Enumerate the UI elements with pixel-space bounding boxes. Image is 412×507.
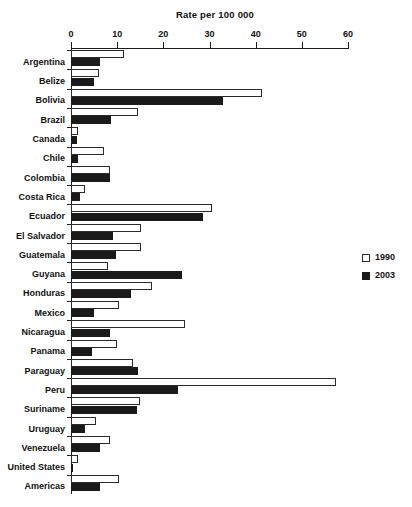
bar-venezuela-1990 xyxy=(71,436,110,444)
bar-suriname-1990 xyxy=(71,397,140,405)
category-label-ecuador: Ecuador xyxy=(29,212,65,221)
bar-honduras-1990 xyxy=(71,282,152,290)
bar-row: Guyana xyxy=(71,262,348,281)
category-label-belize: Belize xyxy=(39,77,65,86)
bar-row: Americas xyxy=(71,475,348,494)
bar-suriname-2003 xyxy=(71,406,137,414)
x-tick-label-60: 60 xyxy=(343,29,353,39)
chart-axis-title: Rate per 100 000 xyxy=(0,9,412,20)
bar-argentina-2003 xyxy=(71,58,100,66)
bar-chart: Rate per 100 000 0102030405060 Argentina… xyxy=(0,0,412,507)
x-tick-30 xyxy=(210,42,211,48)
bar-paraguay-2003 xyxy=(71,367,138,375)
x-tick-50 xyxy=(302,42,303,48)
bar-nicaragua-1990 xyxy=(71,320,185,328)
bar-panama-2003 xyxy=(71,348,92,356)
bar-peru-2003 xyxy=(71,386,178,394)
bar-row: Mexico xyxy=(71,301,348,320)
bar-row: Brazil xyxy=(71,108,348,127)
category-label-uruguay: Uruguay xyxy=(28,425,65,434)
bar-row: Panama xyxy=(71,340,348,359)
category-label-americas: Americas xyxy=(24,482,65,491)
category-label-argentina: Argentina xyxy=(23,58,65,67)
bar-row: Venezuela xyxy=(71,436,348,455)
bar-americas-2003 xyxy=(71,483,100,491)
bar-row: Honduras xyxy=(71,282,348,301)
bar-guatemala-2003 xyxy=(71,251,116,259)
white-square-icon xyxy=(362,254,370,262)
bar-row: United States xyxy=(71,455,348,474)
bar-row: Paraguay xyxy=(71,359,348,378)
x-tick-label-0: 0 xyxy=(68,29,73,39)
bar-canada-2003 xyxy=(71,136,77,144)
bar-row: Ecuador xyxy=(71,204,348,223)
bar-bolivia-1990 xyxy=(71,89,262,97)
bar-colombia-1990 xyxy=(71,166,110,174)
bar-chile-2003 xyxy=(71,155,78,163)
category-label-canada: Canada xyxy=(32,135,65,144)
category-label-mexico: Mexico xyxy=(34,309,65,318)
bar-belize-1990 xyxy=(71,69,99,77)
bar-nicaragua-2003 xyxy=(71,329,110,337)
bar-bolivia-2003 xyxy=(71,97,223,105)
black-square-icon xyxy=(362,272,370,280)
x-tick-0 xyxy=(71,42,72,48)
category-label-colombia: Colombia xyxy=(24,174,65,183)
bar-row: Nicaragua xyxy=(71,320,348,339)
bar-row: Bolivia xyxy=(71,89,348,108)
legend-item-2003: 2003 xyxy=(362,271,395,280)
x-tick-20 xyxy=(163,42,164,48)
bar-united-states-2003 xyxy=(71,464,73,472)
legend-label-1990: 1990 xyxy=(375,253,395,262)
bar-el-salvador-1990 xyxy=(71,224,141,232)
category-label-united-states: United States xyxy=(7,463,65,472)
bar-peru-1990 xyxy=(71,378,336,386)
x-tick-label-40: 40 xyxy=(251,29,261,39)
bar-venezuela-2003 xyxy=(71,444,100,452)
x-tick-40 xyxy=(256,42,257,48)
bar-row: Colombia xyxy=(71,166,348,185)
bar-canada-1990 xyxy=(71,127,78,135)
bar-row: Guatemala xyxy=(71,243,348,262)
bar-ecuador-1990 xyxy=(71,204,212,212)
category-label-panama: Panama xyxy=(30,347,65,356)
bar-united-states-1990 xyxy=(71,455,78,463)
bar-row: Costa Rica xyxy=(71,185,348,204)
x-tick-label-10: 10 xyxy=(112,29,122,39)
bar-guyana-2003 xyxy=(71,271,182,279)
bar-panama-1990 xyxy=(71,340,117,348)
category-label-bolivia: Bolivia xyxy=(35,96,65,105)
bar-el-salvador-2003 xyxy=(71,232,113,240)
category-label-guatemala: Guatemala xyxy=(19,251,65,260)
bar-brazil-1990 xyxy=(71,108,138,116)
category-label-suriname: Suriname xyxy=(24,405,65,414)
category-label-costa-rica: Costa Rica xyxy=(18,193,65,202)
bar-paraguay-1990 xyxy=(71,359,133,367)
bar-row: Argentina xyxy=(71,50,348,69)
legend-label-2003: 2003 xyxy=(375,271,395,280)
category-label-honduras: Honduras xyxy=(23,289,65,298)
bar-argentina-1990 xyxy=(71,50,124,58)
bar-mexico-2003 xyxy=(71,309,94,317)
x-tick-label-50: 50 xyxy=(297,29,307,39)
bar-ecuador-2003 xyxy=(71,213,203,221)
x-tick-10 xyxy=(117,42,118,48)
category-label-el-salvador: El Salvador xyxy=(16,232,65,241)
category-label-chile: Chile xyxy=(43,154,65,163)
bar-uruguay-2003 xyxy=(71,425,85,433)
bar-guyana-1990 xyxy=(71,262,108,270)
bar-colombia-2003 xyxy=(71,174,110,182)
bar-costa-rica-2003 xyxy=(71,193,80,201)
bar-row: Chile xyxy=(71,147,348,166)
bar-belize-2003 xyxy=(71,78,94,86)
x-tick-60 xyxy=(348,42,349,48)
bar-brazil-2003 xyxy=(71,116,111,124)
bar-row: Suriname xyxy=(71,397,348,416)
bar-costa-rica-1990 xyxy=(71,185,85,193)
bar-uruguay-1990 xyxy=(71,417,96,425)
category-label-paraguay: Paraguay xyxy=(24,367,65,376)
plot-area: ArgentinaBelizeBoliviaBrazilCanadaChileC… xyxy=(71,49,348,493)
x-tick-label-20: 20 xyxy=(158,29,168,39)
bar-row: Canada xyxy=(71,127,348,146)
category-label-guyana: Guyana xyxy=(32,270,65,279)
